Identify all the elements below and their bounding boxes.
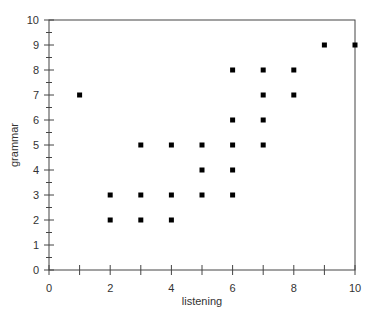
data-point [230, 168, 235, 173]
data-point [322, 43, 327, 48]
data-point [169, 143, 174, 148]
data-point [200, 193, 205, 198]
data-point [291, 93, 296, 98]
data-point [230, 143, 235, 148]
data-point [138, 218, 143, 223]
y-tick-label: 6 [33, 114, 39, 126]
data-point [169, 218, 174, 223]
data-point [261, 118, 266, 123]
y-axis: 012345678910 [27, 14, 54, 276]
data-point [261, 93, 266, 98]
data-point [353, 43, 358, 48]
y-tick-label: 7 [33, 89, 39, 101]
y-tick-label: 8 [33, 64, 39, 76]
y-tick-label: 4 [33, 164, 39, 176]
data-point [138, 143, 143, 148]
x-tick-label: 8 [291, 282, 297, 294]
y-tick-label: 9 [33, 39, 39, 51]
data-point [77, 93, 82, 98]
data-point [291, 68, 296, 73]
data-point [108, 193, 113, 198]
y-axis-label: grammar [8, 123, 20, 167]
y-tick-label: 2 [33, 214, 39, 226]
x-tick-label: 4 [168, 282, 174, 294]
scatter-chart: 012345678910 0246810 listening grammar [0, 0, 372, 314]
data-point [200, 168, 205, 173]
data-point [261, 143, 266, 148]
y-tick-label: 5 [33, 139, 39, 151]
x-tick-label: 6 [230, 282, 236, 294]
data-point [230, 193, 235, 198]
data-point [169, 193, 174, 198]
data-point [200, 143, 205, 148]
data-point [230, 118, 235, 123]
y-tick-label: 3 [33, 189, 39, 201]
y-tick-label: 1 [33, 239, 39, 251]
data-point [108, 218, 113, 223]
y-tick-label: 0 [33, 264, 39, 276]
y-tick-label: 10 [27, 14, 39, 26]
x-tick-label: 0 [46, 282, 52, 294]
x-axis: 0246810 [46, 265, 361, 294]
x-tick-label: 2 [107, 282, 113, 294]
data-points [77, 43, 357, 223]
x-axis-label: listening [182, 295, 222, 307]
data-point [230, 68, 235, 73]
data-point [261, 68, 266, 73]
x-tick-label: 10 [349, 282, 361, 294]
data-point [138, 193, 143, 198]
